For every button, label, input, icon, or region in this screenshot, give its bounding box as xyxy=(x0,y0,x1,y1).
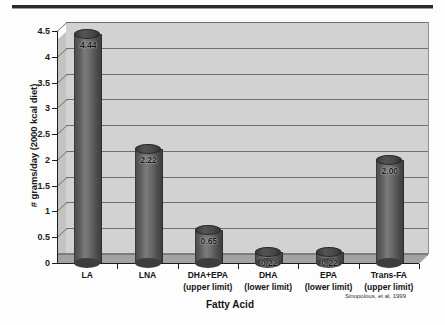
x-axis-tick xyxy=(178,264,179,269)
y-axis-tick-label: 1.5 xyxy=(37,181,50,191)
x-axis-tick xyxy=(298,264,299,269)
bar: 2.22 xyxy=(135,149,163,263)
y-axis-tick-label: 0 xyxy=(45,258,50,268)
chart-figure: 00.511.522.533.544.5 # grams/day (2000 k… xyxy=(0,0,445,325)
gridline xyxy=(66,151,428,152)
y-axis-tick-label-wrap: 3 xyxy=(0,108,50,109)
x-axis-tick xyxy=(238,264,239,269)
gridline xyxy=(66,202,428,203)
category-name: DHA+EPA xyxy=(188,270,228,280)
source-citation: Sinopolous, et al, 1999 xyxy=(345,293,406,299)
y-axis-tick xyxy=(52,83,57,84)
gridline xyxy=(66,228,428,229)
y-axis-tick-label-wrap: 0.5 xyxy=(0,237,50,238)
y-axis-tick-label-wrap: 2.5 xyxy=(0,134,50,135)
y-axis-tick-label-wrap: 4 xyxy=(0,57,50,58)
x-axis-tick xyxy=(419,264,420,269)
y-axis-tick-label-wrap: 3.5 xyxy=(0,83,50,84)
bar-top-cap xyxy=(135,144,161,154)
bar-value-label: 0.22 xyxy=(321,258,338,268)
y-axis-tick xyxy=(52,108,57,109)
y-axis-tick-label: 2.5 xyxy=(37,129,50,139)
bar-top-cap xyxy=(255,247,281,257)
gridline xyxy=(66,125,428,126)
y-axis-tick-label: 1 xyxy=(45,206,50,216)
bar-top-cap xyxy=(195,225,221,235)
x-axis-title: Fatty Acid xyxy=(140,299,320,310)
category-name: EPA xyxy=(320,270,337,280)
y-axis-tick xyxy=(52,160,57,161)
x-axis-tick xyxy=(359,264,360,269)
y-axis-tick xyxy=(52,237,57,238)
y-axis-tick xyxy=(52,186,57,187)
gridline xyxy=(66,48,428,49)
y-axis-tick-label: 3 xyxy=(45,103,50,113)
category-sublabel: (lower limit) xyxy=(238,282,298,294)
y-axis-tick-label-wrap: 0 xyxy=(0,263,50,264)
header-rule-shadow xyxy=(12,8,433,9)
bar-top-cap xyxy=(376,155,402,165)
y-axis-title: # grams/day (2000 kcal diet) xyxy=(28,46,39,246)
y-axis-tick xyxy=(52,134,57,135)
y-axis-tick-label-wrap: 1.5 xyxy=(0,186,50,187)
plot-back-wall xyxy=(66,22,429,254)
bar-value-label: 0.22 xyxy=(261,258,278,268)
y-axis-tick-label: 3.5 xyxy=(37,78,50,88)
category-name: LNA xyxy=(139,270,156,280)
bar-base-cap xyxy=(74,258,100,268)
bar-base-cap xyxy=(376,258,402,268)
bar: 2.00 xyxy=(376,160,404,263)
y-axis-line xyxy=(57,31,58,263)
bar: 4.44 xyxy=(74,34,102,263)
bar-top-cap xyxy=(316,247,342,257)
x-axis-category-label: DHA+EPA(upper limit) xyxy=(178,270,238,293)
x-axis-tick xyxy=(117,264,118,269)
category-name: Trans-FA xyxy=(371,270,407,280)
y-axis-tick-label-wrap: 2 xyxy=(0,160,50,161)
y-axis-tick xyxy=(52,57,57,58)
y-axis-tick-label-wrap: 4.5 xyxy=(0,31,50,32)
x-axis-category-label: EPA(lower limit) xyxy=(298,270,358,293)
bar-base-cap xyxy=(135,258,161,268)
bar-top-cap xyxy=(74,29,100,39)
x-axis-category-label: Trans-FA(upper limit) xyxy=(359,270,419,293)
bar-value-label: 0.65 xyxy=(201,236,218,246)
y-axis-tick-label: 4.5 xyxy=(37,26,50,36)
category-sublabel: (lower limit) xyxy=(298,282,358,294)
y-axis-tick-label: 2 xyxy=(45,155,50,165)
bar-base-cap xyxy=(195,258,221,268)
gridline xyxy=(66,99,428,100)
y-axis-tick xyxy=(52,31,57,32)
bar: 0.22 xyxy=(255,252,283,263)
category-sublabel: (upper limit) xyxy=(178,282,238,294)
x-axis-category-label: DHA(lower limit) xyxy=(238,270,298,293)
gridline xyxy=(66,177,428,178)
gridline xyxy=(66,22,428,23)
category-sublabel: (upper limit) xyxy=(359,282,419,294)
x-axis-category-label: LNA xyxy=(117,270,177,282)
category-name: DHA xyxy=(259,270,277,280)
y-axis-tick-label: 0.5 xyxy=(37,232,50,242)
y-axis-tick xyxy=(52,211,57,212)
bar-value-label: 2.00 xyxy=(382,166,399,176)
category-name: LA xyxy=(81,270,92,280)
bar-value-label: 2.22 xyxy=(140,155,157,165)
x-axis-category-label: LA xyxy=(57,270,117,282)
bar: 0.22 xyxy=(316,252,344,263)
bar: 0.65 xyxy=(195,230,223,264)
gridline xyxy=(66,74,428,75)
y-axis-tick-label-wrap: 1 xyxy=(0,211,50,212)
y-axis-tick-label: 4 xyxy=(45,52,50,62)
bar-value-label: 4.44 xyxy=(80,40,97,50)
